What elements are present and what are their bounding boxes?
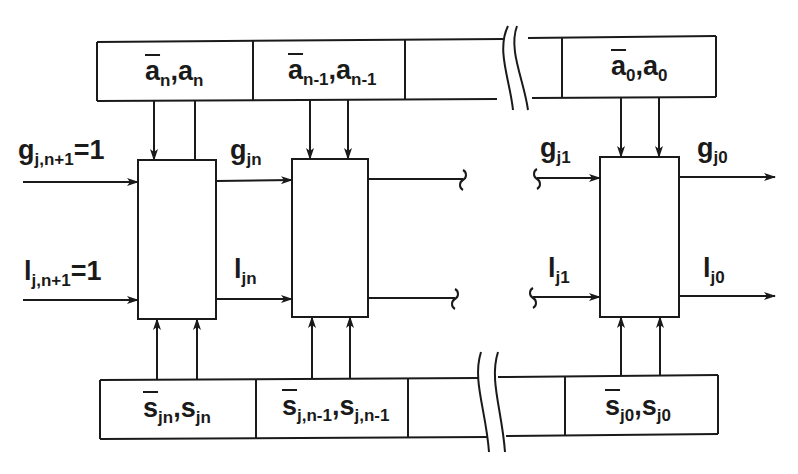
label-a-n-1: an-1,an-1 xyxy=(288,57,377,88)
label-l-jn: ljn xyxy=(234,256,257,287)
label-l-in: lj,n+1=1 xyxy=(24,258,102,289)
cell-n xyxy=(138,160,216,319)
label-a-0: a0,a0 xyxy=(611,53,668,84)
label-l-j1: lj1 xyxy=(548,255,570,286)
label-a-n: an,an xyxy=(145,58,203,89)
label-l-j0: lj0 xyxy=(703,255,725,286)
comparator-chain-diagram: an,an an-1,an-1 a0,a0 sjn,sjn sj,n-1,sj,… xyxy=(0,0,798,474)
label-g-in: gj,n+1=1 xyxy=(18,137,105,168)
label-s-jn: sjn,sjn xyxy=(143,395,211,426)
label-s-j0: sj0,sj0 xyxy=(605,393,671,424)
label-g-j0: gj0 xyxy=(697,135,728,166)
cell-0 xyxy=(600,157,679,317)
cell-n-1 xyxy=(292,159,368,317)
label-g-jn: gjn xyxy=(230,137,262,168)
label-s-j-n-1: sj,n-1,sj,n-1 xyxy=(282,393,389,424)
label-g-j1: gj1 xyxy=(540,135,571,166)
diagram-lines xyxy=(0,0,798,474)
